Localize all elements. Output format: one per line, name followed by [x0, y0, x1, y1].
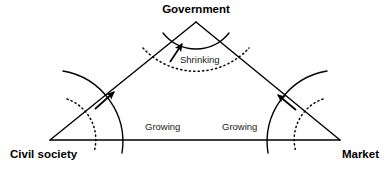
annotation-shrinking: Shrinking: [180, 54, 220, 65]
triangle-diagram: Government Civil society Market Shrinkin…: [0, 0, 389, 169]
node-label-market: Market: [342, 148, 379, 160]
node-label-government: Government: [162, 3, 230, 15]
market-arc-dotted: [294, 99, 323, 152]
annotation-growing-left: Growing: [145, 121, 180, 132]
triangle-outline: [50, 22, 340, 140]
node-label-civil-society: Civil society: [10, 148, 78, 160]
annotation-growing-right: Growing: [222, 121, 257, 132]
diagram-canvas: Government Civil society Market Shrinkin…: [0, 0, 389, 169]
triangle-side-right: [196, 22, 340, 140]
